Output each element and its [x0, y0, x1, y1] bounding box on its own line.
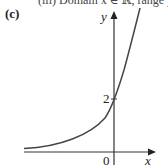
y-axis-label: y — [101, 9, 107, 25]
y-axis-arrow-icon — [111, 11, 118, 19]
origin-label: 0 — [103, 153, 110, 168]
axes-and-curve — [0, 0, 168, 168]
x-axis-label: x — [145, 153, 151, 168]
graph-figure: (iii) Domain x ∈ ℝ, range y > 0 (c) y x … — [0, 0, 168, 168]
exponential-curve — [24, 8, 140, 149]
y-intercept-label: 2 — [103, 91, 110, 107]
